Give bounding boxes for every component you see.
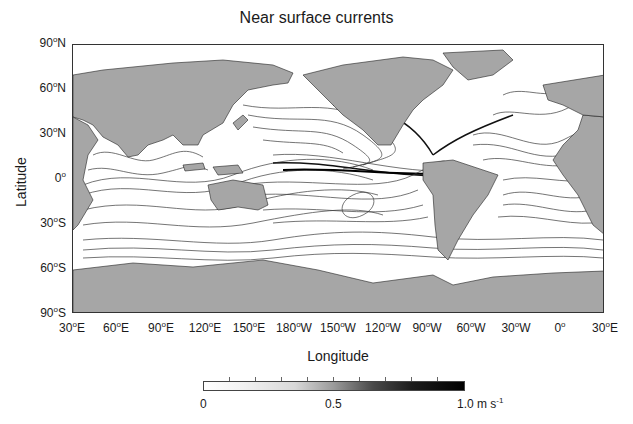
colorbar-tick	[255, 377, 256, 381]
ytick-30s: 30oS	[10, 216, 66, 230]
world-map	[73, 45, 604, 313]
map-frame	[72, 44, 604, 313]
xtick-90e: 90oE	[136, 321, 186, 335]
xtick-60e: 60oE	[91, 321, 141, 335]
ytick-90s: 90oS	[10, 306, 66, 320]
xtick-60w: 60oW	[446, 321, 496, 335]
ytick-90n: 90oN	[10, 36, 66, 50]
ytick-60n: 60oN	[10, 81, 66, 95]
xtick-90w: 90oW	[402, 321, 452, 335]
xtick-180w: 180oW	[269, 321, 319, 335]
xtick-30w: 30oW	[491, 321, 541, 335]
ytick-30n: 30oN	[10, 126, 66, 140]
colorbar-tick	[437, 377, 438, 381]
colorbar-tick	[411, 377, 412, 381]
xtick-150e: 150oE	[224, 321, 274, 335]
colorbar-tick	[359, 377, 360, 381]
xtick-120w: 120oW	[358, 321, 408, 335]
colorbar-tick	[307, 377, 308, 381]
colorbar-tick	[229, 377, 230, 381]
chart-title: Near surface currents	[0, 9, 633, 27]
colorbar-tick	[333, 377, 334, 381]
xtick-120e: 120oE	[180, 321, 230, 335]
colorbar-mid-label: 0.5	[325, 397, 342, 411]
colorbar-max-label: 1.0 m s-1	[457, 397, 503, 411]
xtick-0: 0o	[535, 321, 585, 335]
colorbar-tick	[281, 377, 282, 381]
colorbar-min-label: 0	[200, 397, 207, 411]
colorbar	[203, 381, 465, 391]
xtick-30e: 30oE	[47, 321, 97, 335]
colorbar-tick	[385, 377, 386, 381]
land-masses	[73, 50, 604, 313]
y-axis-label: Latitude	[13, 152, 29, 212]
x-axis-label: Longitude	[0, 348, 633, 364]
ytick-60s: 60oS	[10, 261, 66, 275]
xtick-150w: 150oW	[313, 321, 363, 335]
xtick-30e-right: 30oE	[580, 321, 630, 335]
